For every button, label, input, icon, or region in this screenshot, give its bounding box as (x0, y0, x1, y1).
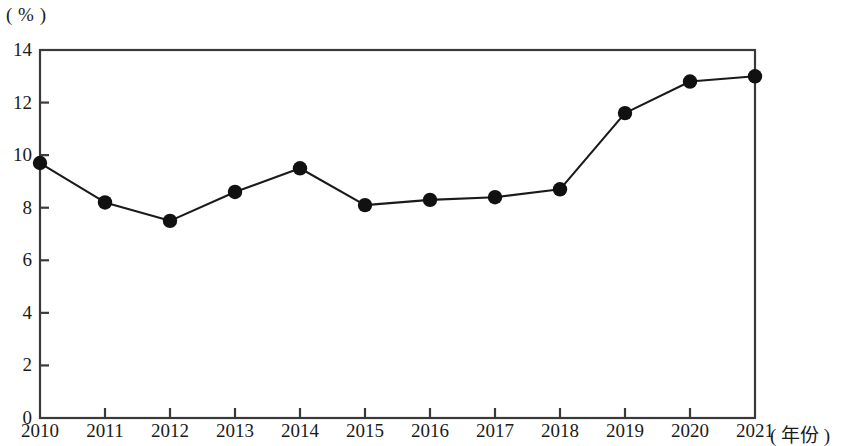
data-point (553, 182, 567, 196)
data-point (163, 214, 177, 228)
y-tick-label: 14 (2, 39, 32, 61)
y-tick-label: 12 (2, 92, 32, 114)
x-tick-label: 2021 (720, 420, 790, 442)
data-point (358, 198, 372, 212)
x-tick-label: 2012 (135, 420, 205, 442)
y-tick-label: 2 (2, 354, 32, 376)
x-tick-label: 2020 (655, 420, 725, 442)
data-point (618, 106, 632, 120)
x-tick-label: 2010 (5, 420, 75, 442)
x-tick-label: 2018 (525, 420, 595, 442)
x-tick-label: 2014 (265, 420, 335, 442)
data-point (98, 195, 112, 209)
chart-figure: ( % ) ( 年份 ) 02468101214 201020112012201… (0, 0, 849, 446)
y-tick-label: 4 (2, 302, 32, 324)
data-point (293, 161, 307, 175)
data-point (683, 74, 697, 88)
data-point (423, 193, 437, 207)
line-chart-plot (0, 0, 849, 446)
data-point (488, 190, 502, 204)
plot-frame (40, 50, 755, 418)
x-tick-label: 2019 (590, 420, 660, 442)
x-tick-label: 2011 (70, 420, 140, 442)
x-tick-label: 2015 (330, 420, 400, 442)
y-tick-label: 10 (2, 144, 32, 166)
y-tick-label: 6 (2, 249, 32, 271)
data-point (228, 185, 242, 199)
x-tick-label: 2017 (460, 420, 530, 442)
x-tick-label: 2016 (395, 420, 465, 442)
x-tick-label: 2013 (200, 420, 270, 442)
y-tick-label: 8 (2, 197, 32, 219)
data-point (33, 156, 47, 170)
data-point (748, 69, 762, 83)
